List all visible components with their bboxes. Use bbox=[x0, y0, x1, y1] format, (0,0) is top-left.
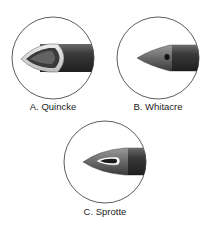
quincke-needle-illustration bbox=[12, 17, 100, 99]
label-whitacre: B. Whitacre bbox=[108, 101, 208, 112]
label-sprotte: C. Sprotte bbox=[55, 206, 155, 217]
needle-diagram bbox=[0, 0, 211, 228]
sprotte-needle-illustration bbox=[64, 121, 150, 203]
label-quincke: A. Quincke bbox=[3, 101, 103, 112]
whitacre-needle-illustration bbox=[117, 17, 205, 99]
